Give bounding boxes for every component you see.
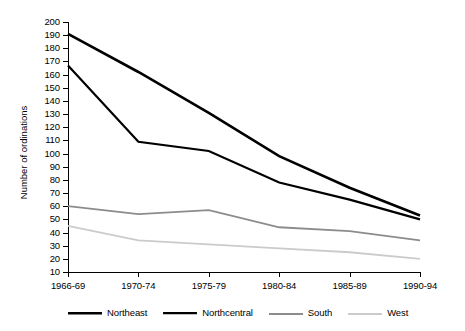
chart-legend: NortheastNorthcentralSouthWest xyxy=(68,303,448,321)
legend-item-northeast[interactable]: Northeast xyxy=(68,307,147,318)
y-axis-tick-label: 40 xyxy=(32,228,60,237)
y-axis-tick-label: 140 xyxy=(32,96,60,105)
y-axis-tick-label: 100 xyxy=(32,149,60,158)
legend-label: Northeast xyxy=(107,307,147,318)
y-axis-tick-label: 70 xyxy=(32,188,60,197)
y-axis-tick-label: 180 xyxy=(32,43,60,52)
y-axis-title: Number of ordinations xyxy=(18,83,29,223)
x-axis-tick xyxy=(279,272,280,277)
x-axis-tick-label: 1970-74 xyxy=(103,280,173,291)
x-axis-tick-label: 1975-79 xyxy=(174,280,244,291)
y-axis-tick-label: 30 xyxy=(32,241,60,250)
y-axis-tick-label: 170 xyxy=(32,56,60,65)
y-axis-tick-label: 60 xyxy=(32,201,60,210)
legend-line-icon xyxy=(269,307,303,318)
legend-line-icon xyxy=(68,307,102,318)
legend-line-icon xyxy=(348,307,382,318)
series-line-west xyxy=(68,226,420,259)
x-axis-tick xyxy=(350,272,351,277)
y-axis-tick-label: 80 xyxy=(32,175,60,184)
plot-area xyxy=(68,22,420,272)
x-axis-tick xyxy=(68,272,69,277)
legend-line-icon xyxy=(163,307,197,318)
x-axis-tick-label: 1966-69 xyxy=(33,280,103,291)
y-axis-tick-label: 20 xyxy=(32,254,60,263)
series-lines xyxy=(68,22,420,272)
x-axis-tick-label: 1985-89 xyxy=(315,280,385,291)
y-axis-tick-label: 150 xyxy=(32,83,60,92)
y-axis-tick-label: 10 xyxy=(32,267,60,276)
legend-item-west[interactable]: West xyxy=(348,307,408,318)
y-axis-tick-label: 110 xyxy=(32,135,60,144)
y-axis-tick-label: 160 xyxy=(32,70,60,79)
line-chart: Number of ordinations 200190180170160150… xyxy=(0,0,465,331)
y-axis-tick-label: 200 xyxy=(32,17,60,26)
y-axis-tick-label: 90 xyxy=(32,162,60,171)
y-axis-tick-label: 190 xyxy=(32,30,60,39)
x-axis-line xyxy=(68,272,420,273)
legend-label: West xyxy=(387,307,408,318)
x-axis-tick xyxy=(138,272,139,277)
x-axis-tick xyxy=(420,272,421,277)
y-axis-tick-label: 130 xyxy=(32,109,60,118)
x-axis-tick-label: 1990-94 xyxy=(385,280,455,291)
legend-label: Northcentral xyxy=(202,307,253,318)
legend-item-south[interactable]: South xyxy=(269,307,332,318)
x-axis-tick-label: 1980-84 xyxy=(244,280,314,291)
y-axis-tick-label: 50 xyxy=(32,214,60,223)
legend-item-northcentral[interactable]: Northcentral xyxy=(163,307,253,318)
x-axis-tick xyxy=(209,272,210,277)
series-line-northeast xyxy=(68,34,420,216)
y-axis-tick-label: 120 xyxy=(32,122,60,131)
series-line-south xyxy=(68,206,420,240)
series-line-northcentral xyxy=(68,65,420,219)
legend-label: South xyxy=(308,307,332,318)
